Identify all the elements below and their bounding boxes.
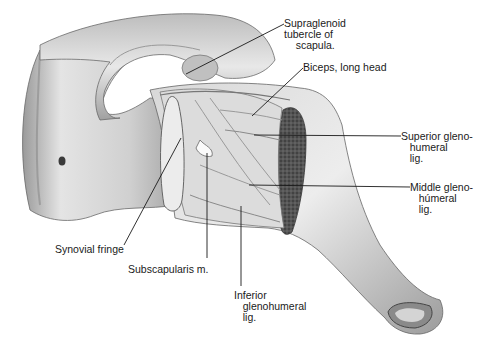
- label-superior-glenohumeral-lig: Superior gleno- humeral lig.: [401, 131, 473, 164]
- label-synovial-fringe: Synovial fringe: [55, 244, 124, 255]
- label-biceps-long-head: Biceps, long head: [303, 62, 386, 73]
- label-subscapularis: Subscapularis m.: [128, 264, 209, 275]
- label-supraglenoid-tubercle: Supraglenoid tubercle of scapula.: [284, 18, 346, 51]
- label-middle-glenohumeral-lig: Middle gleno- húmeral lig.: [410, 182, 473, 215]
- joint-capsule: [160, 89, 290, 228]
- label-inferior-glenohumeral-lig: Inferior glenohumeral lig.: [234, 290, 306, 323]
